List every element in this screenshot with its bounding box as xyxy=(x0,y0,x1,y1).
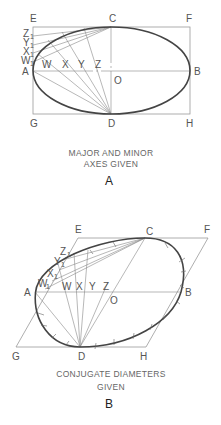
label-o: O xyxy=(110,295,118,306)
label-e: E xyxy=(75,224,82,235)
label-z: Z xyxy=(95,59,101,70)
label-y1: Y xyxy=(54,256,61,267)
label-d: D xyxy=(108,118,115,129)
label-y: Y xyxy=(78,59,85,70)
svg-text:1: 1 xyxy=(67,251,71,258)
label-w: W xyxy=(62,281,72,292)
label-c: C xyxy=(146,226,153,237)
label-x: X xyxy=(62,59,69,70)
label-h: H xyxy=(140,351,147,362)
label-a: A xyxy=(24,287,31,298)
figure-letter-b: B xyxy=(105,397,113,411)
label-c: C xyxy=(109,13,116,24)
caption-a-line1: MAJOR AND MINOR xyxy=(69,148,154,158)
label-h: H xyxy=(186,118,193,129)
figure-b: E C F A O B G D H Z 1 Y 1 X 1 W 1 W X Y … xyxy=(12,224,210,411)
label-z: Z xyxy=(103,281,109,292)
label-x: X xyxy=(76,281,83,292)
label-f: F xyxy=(186,13,192,24)
svg-text:1: 1 xyxy=(54,273,58,280)
svg-text:1: 1 xyxy=(46,283,50,290)
figure-a: E C F A O B G D H Z 1 Y 1 X 1 W 1 W X Y … xyxy=(21,13,201,188)
caption-b-line2: GIVEN xyxy=(97,382,125,392)
ellipse-a xyxy=(33,27,190,114)
svg-text:1: 1 xyxy=(30,60,34,67)
rays-from-d xyxy=(35,250,108,347)
svg-text:1: 1 xyxy=(30,33,34,40)
label-y: Y xyxy=(89,281,96,292)
svg-text:1: 1 xyxy=(61,261,65,268)
figure-letter-a: A xyxy=(105,174,113,188)
svg-text:1: 1 xyxy=(30,51,34,58)
label-w: W xyxy=(42,59,52,70)
label-g: G xyxy=(12,351,20,362)
label-b: B xyxy=(194,66,201,77)
label-a: A xyxy=(22,66,29,77)
label-f: F xyxy=(204,224,210,235)
label-z1: Z xyxy=(60,246,66,257)
caption-b-line1: CONJUGATE DIAMETERS xyxy=(56,369,165,379)
label-o: O xyxy=(114,75,122,86)
label-e: E xyxy=(30,13,37,24)
svg-text:1: 1 xyxy=(30,42,34,49)
label-d: D xyxy=(78,351,85,362)
caption-a-line2: AXES GIVEN xyxy=(84,159,139,169)
label-b: B xyxy=(185,287,192,298)
ellipse-construction-diagrams: E C F A O B G D H Z 1 Y 1 X 1 W 1 W X Y … xyxy=(0,0,221,425)
label-g: G xyxy=(30,118,38,129)
label-x1: X xyxy=(47,268,54,279)
